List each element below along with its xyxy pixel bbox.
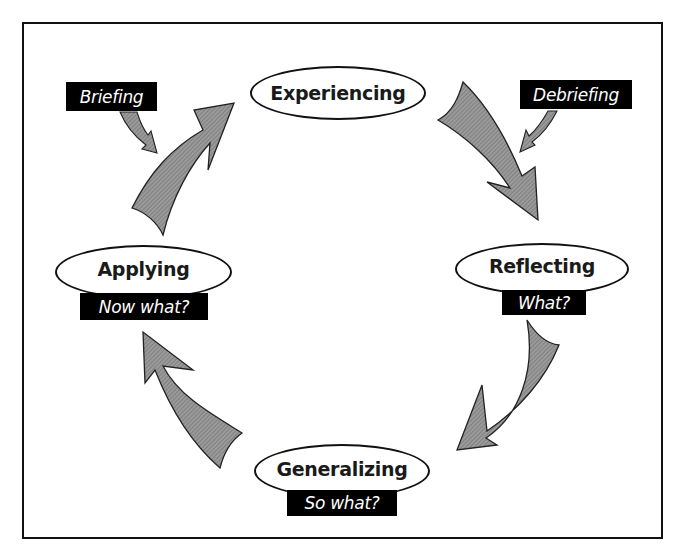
stage-label: Experiencing	[270, 82, 405, 104]
stage-label: Generalizing	[276, 458, 407, 480]
question-tag-applying: Now what?	[80, 293, 208, 320]
arrow-briefing-icon	[120, 112, 157, 153]
stage-label: Reflecting	[489, 255, 595, 277]
label-briefing: Briefing	[66, 82, 157, 111]
question-tag-generalizing: So what?	[287, 490, 397, 516]
question-tag-reflecting: What?	[502, 290, 586, 315]
arrow-debriefing-icon	[520, 111, 557, 152]
arrow-reflecting-to-generalizing-icon	[457, 320, 559, 450]
label-debriefing: Debriefing	[520, 80, 632, 109]
stage-label: Applying	[97, 258, 189, 280]
stage-reflecting: Reflecting	[455, 243, 629, 295]
stage-experiencing: Experiencing	[250, 66, 426, 120]
arrow-generalizing-to-applying-icon	[143, 332, 242, 468]
stage-applying: Applying	[55, 245, 232, 299]
arrow-applying-to-experiencing-icon	[132, 103, 234, 235]
